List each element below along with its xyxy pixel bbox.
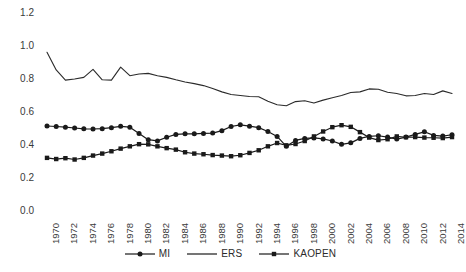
legend-item-ers[interactable]: ERS [187, 248, 242, 259]
chart-legend: MIERSKAOPEN [0, 248, 461, 259]
data-point-marker [146, 137, 151, 142]
data-point-marker [404, 135, 408, 139]
data-point-marker [137, 142, 141, 146]
data-point-marker [330, 139, 335, 144]
data-point-marker [367, 135, 371, 139]
data-point-marker [54, 124, 59, 129]
x-axis-tick-label: 2000 [327, 223, 337, 244]
data-point-marker [247, 151, 251, 155]
data-point-marker [238, 153, 242, 157]
x-axis-tick-label: 2002 [346, 223, 356, 244]
data-point-marker [450, 135, 454, 139]
x-axis-tick-label: 1986 [198, 223, 208, 244]
data-point-marker [91, 126, 96, 131]
data-point-marker [349, 125, 353, 129]
data-point-marker [174, 147, 178, 151]
data-point-marker [266, 144, 270, 148]
data-point-marker [265, 129, 270, 134]
data-point-marker [275, 134, 280, 139]
data-point-marker [284, 143, 288, 147]
data-point-marker [220, 153, 224, 157]
data-point-marker [348, 140, 353, 145]
data-point-marker [358, 130, 362, 134]
series-line [47, 52, 452, 105]
legend-label: MI [159, 248, 171, 259]
data-point-marker [422, 129, 427, 134]
data-point-marker [247, 124, 252, 129]
data-point-marker [45, 124, 50, 129]
x-axis-tick-label: 1974 [88, 223, 98, 244]
data-point-marker [256, 125, 261, 130]
x-axis-tick-label: 1994 [272, 223, 282, 244]
data-point-marker [293, 142, 297, 146]
x-axis-tick-label: 2014 [456, 223, 466, 244]
data-point-marker [137, 131, 142, 136]
data-point-marker [82, 156, 86, 160]
series-mi [45, 122, 455, 148]
data-point-marker [164, 135, 169, 140]
legend-label: ERS [221, 248, 242, 259]
data-point-marker [321, 129, 325, 133]
x-axis-tick-label: 1980 [143, 223, 153, 244]
data-point-marker [100, 126, 105, 131]
data-point-marker [339, 123, 343, 127]
data-point-marker [155, 144, 159, 148]
data-point-marker [72, 157, 76, 161]
legend-item-mi[interactable]: MI [125, 248, 171, 259]
data-point-marker [109, 125, 114, 130]
x-axis-tick-label: 1998 [309, 223, 319, 244]
data-point-marker [422, 135, 426, 139]
x-axis-tick-label: 2004 [364, 223, 374, 244]
data-point-marker [376, 133, 381, 138]
y-axis-tick-label: 1.0 [8, 41, 34, 51]
data-point-marker [357, 136, 362, 141]
data-point-marker [45, 156, 49, 160]
data-point-marker [312, 134, 316, 138]
data-point-marker [192, 131, 197, 136]
series-ers [47, 52, 452, 105]
data-point-marker [385, 137, 389, 141]
data-point-marker [395, 134, 399, 138]
data-point-marker [210, 131, 215, 136]
y-axis-tick-label: 0.4 [8, 140, 34, 150]
x-axis-tick-label: 2012 [438, 223, 448, 244]
data-point-marker [219, 128, 224, 133]
data-point-marker [330, 125, 334, 129]
data-point-marker [275, 141, 279, 145]
data-point-marker [63, 156, 67, 160]
data-point-marker [118, 146, 122, 150]
data-point-marker [118, 124, 123, 129]
data-point-marker [257, 148, 261, 152]
data-point-marker [81, 126, 86, 131]
data-point-marker [173, 132, 178, 137]
x-axis-tick-label: 1988 [217, 223, 227, 244]
data-point-marker [183, 150, 187, 154]
data-point-marker [63, 125, 68, 130]
data-point-marker [155, 138, 160, 143]
x-axis-tick-label: 1970 [51, 223, 61, 244]
y-axis-tick-label: 0.0 [8, 206, 34, 216]
x-axis-tick-label: 1978 [125, 223, 135, 244]
legend-item-kaopen[interactable]: KAOPEN [259, 248, 336, 259]
data-point-marker [128, 144, 132, 148]
legend-swatch-circle-icon [125, 249, 155, 259]
x-axis-tick-label: 1992 [254, 223, 264, 244]
x-axis-tick-label: 2006 [382, 223, 392, 244]
data-point-marker [146, 142, 150, 146]
x-axis-tick-label: 1984 [180, 223, 190, 244]
data-point-marker [210, 153, 214, 157]
legend-swatch-square-icon [259, 249, 289, 259]
x-axis-tick-label: 1976 [106, 223, 116, 244]
data-point-marker [201, 152, 205, 156]
data-point-marker [183, 131, 188, 136]
x-axis-tick-label: 1972 [69, 223, 79, 244]
data-point-marker [54, 157, 58, 161]
data-point-marker [376, 138, 380, 142]
data-point-marker [109, 149, 113, 153]
data-point-marker [229, 154, 233, 158]
y-axis-tick-label: 0.8 [8, 74, 34, 84]
y-axis-tick-label: 0.6 [8, 107, 34, 117]
x-axis-tick-label: 1990 [235, 223, 245, 244]
data-point-marker [192, 151, 196, 155]
